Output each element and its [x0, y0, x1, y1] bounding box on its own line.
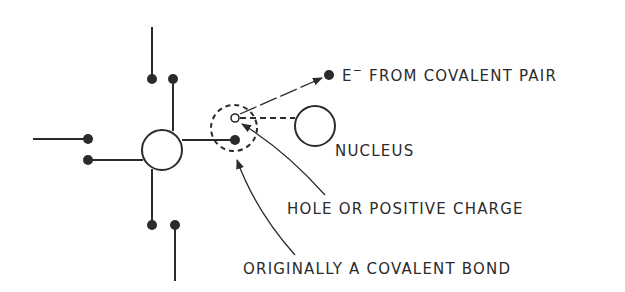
bottom-covalent-pair — [147, 169, 180, 281]
electron-arrow — [240, 78, 322, 114]
bond-label: ORIGINALLY A COVALENT BOND — [243, 260, 511, 278]
central-atom-circle — [142, 130, 182, 170]
electron-dot — [147, 220, 157, 230]
central-atom — [142, 130, 182, 170]
top-covalent-pair — [147, 27, 178, 131]
nucleus-circle — [295, 106, 335, 146]
electron-dot — [230, 135, 240, 145]
covalent-bond-hole-diagram: E− FROM COVALENT PAIR NUCLEUS HOLE OR PO… — [0, 0, 625, 292]
electron-label: E− FROM COVALENT PAIR — [342, 64, 557, 85]
nucleus-label: NUCLEUS — [335, 142, 414, 160]
left-covalent-pair — [33, 134, 143, 165]
hole-label: HOLE OR POSITIVE CHARGE — [287, 200, 524, 218]
electron-dot — [324, 70, 334, 80]
hole-pointer-arrow — [242, 124, 325, 195]
hole-circle — [231, 114, 239, 122]
electron-dot — [147, 74, 157, 84]
electron-dot — [83, 134, 93, 144]
